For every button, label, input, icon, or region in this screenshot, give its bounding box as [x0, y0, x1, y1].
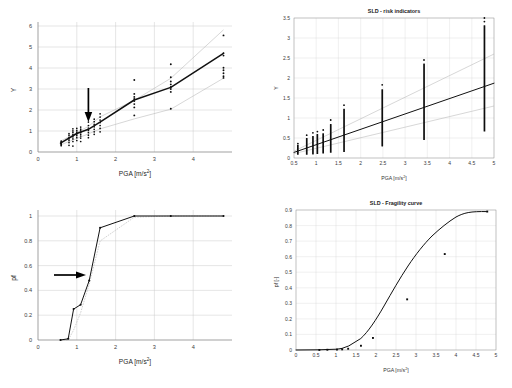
y-tick-5: 1 — [29, 213, 32, 219]
axes-top-left — [38, 22, 232, 152]
x-axis-label-bottom-right: PGA [m/s2] — [383, 367, 409, 373]
x-tick-0: 0 — [36, 156, 39, 162]
plot-title-bottom-right: SLD - Fragility curve — [370, 200, 422, 206]
x-tick-4: 4 — [192, 156, 195, 162]
x-axis-label-top-left: PGA [m/s2] — [119, 169, 151, 178]
x-tick-9: 5 — [493, 160, 496, 166]
empirical-fragility-curve-bottom-left — [61, 216, 224, 340]
y-tick-7: 3.5 — [283, 15, 290, 21]
fragility-curve-bottom-right — [296, 212, 487, 350]
x-tick-4: 2.5 — [379, 160, 386, 166]
y-tick-5: 2.5 — [283, 55, 290, 61]
x-tick-0: 0 — [36, 344, 39, 350]
x-tick-2: 1 — [335, 352, 338, 358]
y-tick-0: 0 — [289, 347, 292, 353]
x-tick-10: 5 — [495, 352, 498, 358]
lower-band-top-left — [61, 78, 224, 145]
plot-bottom-left: 0 0.2 0.4 0.6 0.8 1 0 1 2 3 4 — [0, 194, 256, 388]
x-tick-1: 1 — [75, 344, 78, 350]
x-tick-1: 1 — [75, 156, 78, 162]
upper-band-top-left — [61, 30, 224, 141]
y-tick-4: 2 — [287, 75, 290, 81]
data-markers-bottom-right — [318, 211, 488, 351]
y-tick-4: 0.4 — [285, 285, 292, 291]
fitted-fragility-curve-bottom-left — [61, 216, 224, 340]
y-tick-1: 0.2 — [24, 312, 32, 318]
y-tick-2: 2 — [29, 107, 32, 113]
x-tick-labels-top-right: 0.5 1 1.5 2 2.5 3 3.5 4 4.5 5 — [291, 160, 496, 166]
x-axis-label-top-right: PGA [m/s2] — [381, 175, 407, 181]
y-tick-6: 0.6 — [285, 254, 292, 260]
regression-line-top-left — [61, 53, 224, 143]
x-tick-5: 3 — [404, 160, 407, 166]
y-axis-label-top-left: Y — [10, 87, 17, 92]
x-tick-0: 0 — [295, 352, 298, 358]
panel-top-left: 0 1 2 3 4 5 6 0 1 2 3 4 — [0, 0, 256, 194]
y-tick-4: 4 — [29, 65, 32, 71]
x-tick-4: 2 — [375, 352, 378, 358]
gridlines-bottom-right — [296, 210, 496, 350]
y-tick-2: 0.2 — [285, 316, 292, 322]
y-tick-0: 0 — [29, 149, 32, 155]
plot-top-left: 0 1 2 3 4 5 6 0 1 2 3 4 — [0, 0, 256, 194]
x-tick-8: 4.5 — [468, 160, 475, 166]
y-tick-labels-bottom-right: 0 0.1 0.2 0.3 0.4 0.5 0.6 0.7 0.8 0.9 — [285, 207, 292, 353]
x-tick-8: 4 — [455, 352, 458, 358]
y-axis-label-top-right: Y — [273, 86, 279, 90]
y-tick-1: 1 — [29, 128, 32, 134]
x-tick-9: 4.5 — [473, 352, 480, 358]
y-tick-8: 0.8 — [285, 223, 292, 229]
panel-top-right: SLD - risk indicators 0 0.5 1 1.5 2 2.5 … — [256, 0, 512, 194]
x-tick-3: 3 — [153, 344, 156, 350]
x-tick-0: 0.5 — [291, 160, 298, 166]
plot-bottom-right: SLD - Fragility curve 0 0.1 0.2 0.3 0.4 … — [256, 194, 512, 388]
y-tick-3: 0.3 — [285, 300, 292, 306]
y-tick-3: 3 — [29, 86, 32, 92]
x-tick-7: 3.5 — [433, 352, 440, 358]
x-tick-5: 2.5 — [393, 352, 400, 358]
x-tick-1: 0.5 — [313, 352, 320, 358]
x-tick-labels-bottom-left: 0 1 2 3 4 — [36, 344, 194, 350]
panel-bottom-left: 0 0.2 0.4 0.6 0.8 1 0 1 2 3 4 — [0, 194, 256, 388]
y-axis-label-bottom-right: pf [-] — [273, 276, 279, 287]
x-tick-6: 3.5 — [424, 160, 431, 166]
x-tick-3: 1.5 — [353, 352, 360, 358]
x-tick-3: 2 — [359, 160, 362, 166]
x-tick-7: 4 — [448, 160, 451, 166]
right-arrow-annotation-icon — [54, 271, 86, 278]
figure-panel-grid: 0 1 2 3 4 5 6 0 1 2 3 4 — [0, 0, 512, 388]
y-tick-labels-top-left: 0 1 2 3 4 5 6 — [29, 23, 32, 155]
data-markers-bottom-left — [59, 215, 224, 341]
y-tick-4: 0.8 — [24, 238, 32, 244]
y-tick-3: 0.6 — [24, 263, 32, 269]
y-tick-9: 0.9 — [285, 207, 292, 213]
scatter-clusters-top-right — [297, 17, 485, 155]
y-tick-labels-top-right: 0 0.5 1 1.5 2 2.5 3 3.5 — [283, 15, 290, 161]
x-tick-3: 3 — [153, 156, 156, 162]
y-tick-0: 0 — [29, 337, 32, 343]
y-tick-5: 0.5 — [285, 269, 292, 275]
y-tick-1: 0.5 — [283, 135, 290, 141]
x-tick-2: 1.5 — [335, 160, 342, 166]
y-tick-2: 0.4 — [24, 287, 32, 293]
panel-bottom-right: SLD - Fragility curve 0 0.1 0.2 0.3 0.4 … — [256, 194, 512, 388]
y-tick-5: 5 — [29, 44, 32, 50]
x-tick-2: 2 — [114, 344, 117, 350]
plot-title-top-right: SLD - risk indicators — [368, 8, 420, 14]
y-tick-6: 6 — [29, 23, 32, 29]
x-tick-4: 4 — [192, 344, 195, 350]
down-arrow-annotation-icon — [85, 88, 93, 122]
x-tick-2: 2 — [114, 156, 117, 162]
y-tick-labels-bottom-left: 0 0.2 0.4 0.6 0.8 1 — [24, 213, 32, 343]
gridlines-top-left — [38, 22, 232, 152]
y-tick-2: 1 — [287, 115, 290, 121]
x-tick-6: 3 — [415, 352, 418, 358]
x-axis-label-bottom-left: PGA [m/s2] — [119, 357, 151, 366]
plot-top-right: SLD - risk indicators 0 0.5 1 1.5 2 2.5 … — [256, 0, 512, 194]
y-tick-6: 3 — [287, 35, 290, 41]
y-tick-1: 0.1 — [285, 331, 292, 337]
y-axis-label-bottom-left: pf — [10, 275, 18, 281]
y-tick-7: 0.7 — [285, 238, 292, 244]
y-tick-3: 1.5 — [283, 95, 290, 101]
x-tick-labels-top-left: 0 1 2 3 4 — [36, 156, 194, 162]
